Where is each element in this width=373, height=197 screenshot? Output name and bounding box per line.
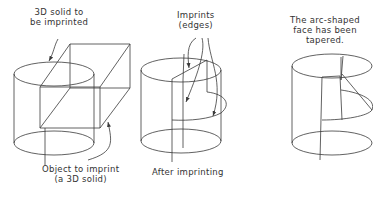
figure-tapered — [292, 54, 373, 160]
label-line: (a 3D solid) — [42, 174, 119, 184]
label-solid-to-imprint: 3D solid to be imprinted — [30, 7, 88, 27]
label-imprints: Imprints (edges) — [177, 10, 215, 30]
arrow-to-cylinder — [49, 39, 58, 61]
figure-before-imprinting — [14, 39, 130, 165]
label-line: Object to imprint — [42, 164, 119, 174]
label-after-imprinting: After imprinting — [152, 167, 224, 177]
label-line: 3D solid to — [30, 7, 88, 17]
cylinder-bottom-ellipse — [14, 131, 94, 155]
label-object-to-imprint: Object to imprint (a 3D solid) — [42, 164, 119, 184]
imprint-edge-vertical-front — [183, 54, 184, 148]
label-line: be imprinted — [30, 17, 88, 27]
label-line: After imprinting — [152, 167, 224, 177]
label-line: (edges) — [177, 20, 215, 30]
label-tapered: The arc-shaped face has been tapered. — [290, 15, 360, 45]
label-line: face has been — [290, 25, 360, 35]
label-line: The arc-shaped — [290, 15, 360, 25]
arrow-imprint-1 — [188, 38, 196, 68]
label-line: Imprints — [177, 10, 215, 20]
cylinder-top-ellipse — [14, 62, 94, 86]
imprint-edge-arc — [172, 60, 226, 120]
imprint-edge-diagonal — [172, 60, 207, 162]
label-line: tapered. — [290, 35, 360, 45]
figure-after-imprinting — [141, 38, 226, 162]
